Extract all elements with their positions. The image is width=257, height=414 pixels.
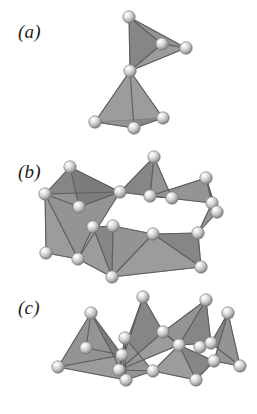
- vertex-sphere: [147, 228, 159, 240]
- vertex-sphere: [166, 192, 178, 204]
- panel-b-structure: [39, 151, 223, 283]
- vertex-sphere: [156, 38, 168, 50]
- vertex-sphere: [205, 337, 217, 349]
- vertex-sphere: [148, 151, 160, 163]
- vertex-sphere: [39, 188, 51, 200]
- vertex-sphere: [107, 220, 119, 232]
- vertex-sphere: [190, 374, 202, 386]
- vertex-sphere: [173, 339, 185, 351]
- tetrahedron-face: [95, 71, 163, 122]
- vertex-sphere: [114, 186, 126, 198]
- vertex-sphere: [157, 326, 169, 338]
- vertex-sphere: [200, 172, 212, 184]
- vertex-sphere: [80, 342, 92, 354]
- figure-root: (a) (b) (c): [0, 0, 257, 414]
- vertex-sphere: [144, 190, 156, 202]
- panel-a-structure: [89, 11, 192, 134]
- vertex-sphere: [211, 206, 223, 218]
- vertex-sphere: [116, 349, 128, 361]
- panel-c-structure: [52, 291, 246, 386]
- vertex-sphere: [147, 365, 159, 377]
- vertex-sphere: [124, 65, 136, 77]
- vertex-sphere: [119, 332, 131, 344]
- vertex-sphere: [128, 122, 140, 134]
- vertex-sphere: [64, 161, 76, 173]
- vertex-sphere: [192, 227, 204, 239]
- vertex-sphere: [234, 360, 246, 372]
- vertex-sphere: [195, 261, 207, 273]
- vertex-sphere: [72, 253, 84, 265]
- vertex-sphere: [89, 116, 101, 128]
- vertex-sphere: [180, 42, 192, 54]
- panel-label-b: (b): [18, 161, 41, 183]
- vertex-sphere: [137, 291, 149, 303]
- vertex-sphere: [106, 271, 118, 283]
- vertex-sphere: [222, 307, 234, 319]
- vertex-sphere: [200, 294, 212, 306]
- vertex-sphere: [40, 247, 52, 259]
- vertex-sphere: [123, 11, 135, 23]
- vertex-sphere: [85, 307, 97, 319]
- tetrahedra-illustration: [0, 0, 257, 414]
- vertex-sphere: [52, 361, 64, 373]
- vertex-sphere: [73, 201, 85, 213]
- vertex-sphere: [194, 341, 206, 353]
- panel-label-c: (c): [18, 297, 40, 319]
- vertex-sphere: [157, 112, 169, 124]
- panel-label-a: (a): [18, 21, 41, 43]
- vertex-sphere: [87, 221, 99, 233]
- vertex-sphere: [113, 364, 125, 376]
- vertex-sphere: [208, 355, 220, 367]
